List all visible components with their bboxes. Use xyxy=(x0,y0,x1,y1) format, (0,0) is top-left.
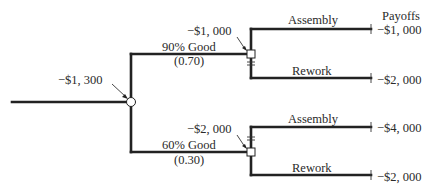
root-value-arrow-icon xyxy=(112,84,126,97)
option-label-assembly-2: Assembly xyxy=(288,112,339,126)
arrowhead-icon xyxy=(242,46,247,51)
decision-1-value-label: −$1, 000 xyxy=(187,24,232,38)
payoff-value-3: −$4, 000 xyxy=(377,121,422,135)
decision-2-value-label: −$2, 000 xyxy=(187,122,232,136)
root-value-label: −$1, 300 xyxy=(58,73,103,87)
arrowhead-icon xyxy=(242,144,247,149)
branch-label-good-60: 60% Good xyxy=(162,138,217,152)
decision-node-2-square-icon xyxy=(247,148,255,156)
branch-label-good-90: 90% Good xyxy=(162,40,217,54)
branch-probability-30: (0.30) xyxy=(174,153,204,167)
payoff-value-2: −$2, 000 xyxy=(377,73,422,87)
payoffs-header: Payoffs xyxy=(382,9,420,23)
option-label-rework-2: Rework xyxy=(292,161,332,175)
arrowhead-icon xyxy=(122,94,128,99)
decision-node-1-square-icon xyxy=(247,50,255,58)
option-label-assembly-1: Assembly xyxy=(288,13,339,27)
payoff-value-4: −$2, 000 xyxy=(377,170,422,184)
branch-probability-70: (0.70) xyxy=(174,54,204,68)
option-label-rework-1: Rework xyxy=(292,64,332,78)
decision-tree-diagram: −$1, 300 −$1, 000 90% Good (0.70) −$2, 0… xyxy=(0,0,439,193)
payoff-value-1: −$1, 000 xyxy=(377,23,422,37)
